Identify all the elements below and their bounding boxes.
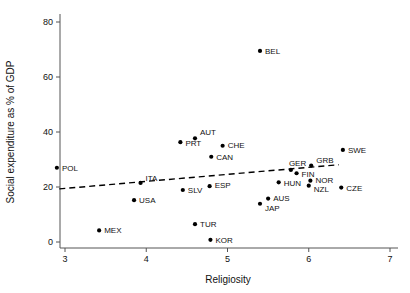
y-tick-label: 40 <box>43 127 53 137</box>
data-point-label-esp: ESP <box>215 181 231 190</box>
data-point-aut <box>193 136 197 140</box>
data-point-label-tur: TUR <box>200 220 217 229</box>
x-tick-label: 3 <box>62 254 67 264</box>
axes: 02040608034567 <box>43 14 398 264</box>
data-point-label-fin: FIN <box>302 170 315 179</box>
data-point-che <box>221 144 225 148</box>
y-axis-title: Social expenditure as % of GDP <box>5 60 16 203</box>
data-point-bel <box>258 49 262 53</box>
y-tick-label: 60 <box>43 72 53 82</box>
data-point-slv <box>181 188 185 192</box>
x-tick-label: 7 <box>387 254 392 264</box>
data-point-swe <box>341 148 345 152</box>
data-point-label-mex: MEX <box>104 226 122 235</box>
x-tick-label: 6 <box>306 254 311 264</box>
data-point-grb <box>309 163 313 167</box>
x-tick-label: 4 <box>144 254 149 264</box>
data-point-prt <box>178 140 182 144</box>
data-point-mex <box>97 228 101 232</box>
plot-canvas: 02040608034567 POLMEXUSAITAPRTSLVAUTTURE… <box>0 0 410 293</box>
x-axis-title: Religiosity <box>205 274 251 285</box>
data-point-label-jap: JAP <box>265 204 280 213</box>
data-point-label-swe: SWE <box>348 146 366 155</box>
data-point-hun <box>277 180 281 184</box>
data-point-nor <box>308 179 312 183</box>
data-point-can <box>209 155 213 159</box>
data-point-aus <box>266 196 270 200</box>
data-point-label-aus: AUS <box>273 194 289 203</box>
data-points: POLMEXUSAITAPRTSLVAUTTURESPKORCANCHEBELJ… <box>55 47 366 245</box>
data-point-jap <box>258 202 262 206</box>
scatter-plot-figure: 02040608034567 POLMEXUSAITAPRTSLVAUTTURE… <box>0 0 410 293</box>
y-tick-label: 20 <box>43 182 53 192</box>
data-point-label-aut: AUT <box>200 128 216 137</box>
data-point-label-nzl: NZL <box>314 185 330 194</box>
data-point-ita <box>138 181 142 185</box>
data-point-label-kor: KOR <box>215 236 233 245</box>
data-point-nzl <box>307 184 311 188</box>
data-point-label-che: CHE <box>228 141 245 150</box>
data-point-label-ita: ITA <box>146 174 159 183</box>
x-tick-label: 5 <box>225 254 230 264</box>
data-point-cze <box>339 185 343 189</box>
y-tick-label: 0 <box>48 237 53 247</box>
data-point-label-hun: HUN <box>284 179 302 188</box>
data-point-label-can: CAN <box>216 153 233 162</box>
data-point-usa <box>132 198 136 202</box>
data-point-esp <box>208 184 212 188</box>
data-point-label-slv: SLV <box>188 186 203 195</box>
data-point-label-pol: POL <box>62 164 79 173</box>
data-point-label-bel: BEL <box>265 47 281 56</box>
data-point-pol <box>55 166 59 170</box>
y-tick-label: 80 <box>43 17 53 27</box>
data-point-ger <box>289 168 293 172</box>
data-point-label-usa: USA <box>139 196 156 205</box>
data-point-label-grb: GRB <box>316 156 333 165</box>
data-point-label-prt: PRT <box>185 139 201 148</box>
data-point-tur <box>193 222 197 226</box>
data-point-label-nor: NOR <box>315 176 333 185</box>
data-point-label-cze: CZE <box>346 184 362 193</box>
data-point-label-ger: GER <box>289 159 307 168</box>
data-point-fin <box>294 171 298 175</box>
data-point-kor <box>208 238 212 242</box>
